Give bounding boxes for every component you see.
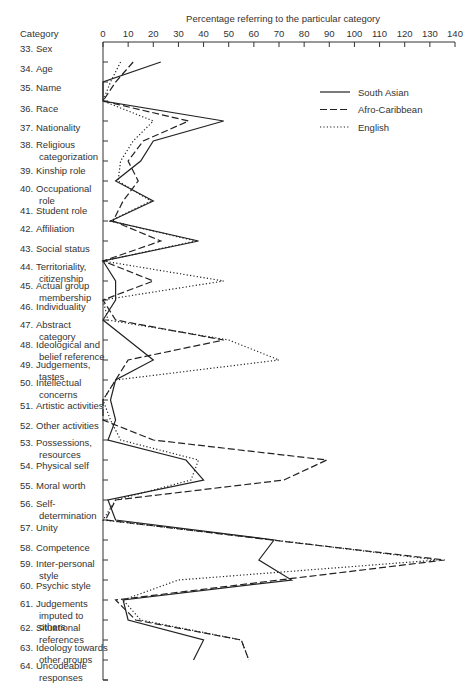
x-tick-label: 110 bbox=[372, 28, 387, 39]
x-axis-title: Percentage referring to the particular c… bbox=[186, 13, 380, 24]
y-axis-title: Category bbox=[20, 28, 59, 39]
category-label-text: Physical self bbox=[36, 460, 89, 471]
category-label: 56. bbox=[20, 498, 33, 509]
x-tick-label: 50 bbox=[223, 28, 234, 39]
category-label-text: Self- bbox=[36, 498, 56, 509]
x-tick-label: 100 bbox=[346, 28, 362, 39]
x-tick-label: 90 bbox=[324, 28, 335, 39]
category-label: 41. bbox=[20, 205, 33, 216]
x-tick-label: 70 bbox=[274, 28, 285, 39]
category-label: 38. bbox=[20, 139, 33, 150]
category-label-text: Ideology towards bbox=[36, 642, 108, 653]
category-label: 44. bbox=[20, 261, 33, 272]
category-label: 53. bbox=[20, 437, 33, 448]
category-label-text: concerns bbox=[39, 389, 78, 400]
series-english bbox=[103, 62, 437, 660]
category-label: 37. bbox=[20, 122, 33, 133]
category-label-text: Affiliation bbox=[36, 223, 74, 234]
category-label-text: Artistic activities bbox=[36, 400, 104, 411]
legend-label: English bbox=[358, 122, 389, 133]
category-labels: 33.Sex34.Age35.Name36.Race37.Nationality… bbox=[20, 43, 108, 683]
legend: South AsianAfro-CaribbeanEnglish bbox=[320, 87, 422, 133]
category-label: 35. bbox=[20, 82, 33, 93]
category-label: 39. bbox=[20, 165, 33, 176]
x-tick-label: 140 bbox=[447, 28, 463, 39]
legend-label: Afro-Caribbean bbox=[358, 104, 422, 115]
line-chart: Percentage referring to the particular c… bbox=[0, 0, 469, 690]
category-label-text: Inter-personal bbox=[36, 558, 95, 569]
x-tick-label: 0 bbox=[100, 28, 105, 39]
category-label-text: style bbox=[39, 570, 59, 581]
category-label: 40. bbox=[20, 183, 33, 194]
x-tick-label: 20 bbox=[148, 28, 159, 39]
category-label-text: Psychic style bbox=[36, 580, 91, 591]
category-label-text: Intellectual bbox=[36, 377, 81, 388]
x-tick-label: 130 bbox=[422, 28, 438, 39]
category-label: 45. bbox=[20, 280, 33, 291]
category-label-text: Individuality bbox=[36, 301, 86, 312]
category-label: 59. bbox=[20, 558, 33, 569]
category-label-text: responses bbox=[39, 672, 83, 683]
category-label-text: categorization bbox=[39, 151, 98, 162]
series-south-asian bbox=[103, 62, 292, 660]
category-label: 48. bbox=[20, 339, 33, 350]
category-label-text: Territoriality, bbox=[36, 261, 87, 272]
category-label-text: Actual group bbox=[36, 280, 89, 291]
category-label-text: Moral worth bbox=[36, 480, 86, 491]
x-tick-label: 30 bbox=[173, 28, 184, 39]
category-label: 58. bbox=[20, 542, 33, 553]
category-label-text: Uncodeable bbox=[36, 660, 87, 671]
legend-label: South Asian bbox=[358, 87, 409, 98]
category-label-text: Possessions, bbox=[36, 437, 92, 448]
category-label: 34. bbox=[20, 63, 33, 74]
category-label-text: Competence bbox=[36, 542, 90, 553]
category-label-text: Race bbox=[36, 103, 58, 114]
category-label: 54. bbox=[20, 460, 33, 471]
category-label: 50. bbox=[20, 377, 33, 388]
category-label: 52. bbox=[20, 420, 33, 431]
category-label-text: imputed to bbox=[39, 610, 83, 621]
category-label-text: Sex bbox=[36, 43, 53, 54]
category-label: 57. bbox=[20, 522, 33, 533]
category-label: 43. bbox=[20, 243, 33, 254]
category-label: 55. bbox=[20, 480, 33, 491]
category-label-text: Unity bbox=[36, 522, 58, 533]
category-label: 46. bbox=[20, 301, 33, 312]
category-label-text: Kinship role bbox=[36, 165, 86, 176]
category-label-text: Social status bbox=[36, 243, 90, 254]
x-tick-label: 40 bbox=[198, 28, 209, 39]
series-lines bbox=[103, 62, 445, 660]
category-label-text: Abstract bbox=[36, 319, 71, 330]
category-label-text: resources bbox=[39, 449, 81, 460]
category-label: 47. bbox=[20, 319, 33, 330]
x-tick-label: 80 bbox=[299, 28, 310, 39]
x-axis: 0102030405060708090100110120130140 bbox=[100, 28, 463, 47]
category-label: 36. bbox=[20, 103, 33, 114]
category-label-text: Judgements bbox=[36, 598, 88, 609]
category-label: 61. bbox=[20, 598, 33, 609]
category-label-text: Student role bbox=[36, 205, 87, 216]
category-label: 64. bbox=[20, 660, 33, 671]
category-label: 60. bbox=[20, 580, 33, 591]
category-label-text: Judgements, bbox=[36, 359, 90, 370]
x-tick-label: 120 bbox=[397, 28, 413, 39]
category-label: 63. bbox=[20, 642, 33, 653]
category-label-text: Nationality bbox=[36, 122, 81, 133]
x-tick-label: 10 bbox=[123, 28, 134, 39]
category-label: 49. bbox=[20, 359, 33, 370]
category-label: 33. bbox=[20, 43, 33, 54]
x-tick-label: 60 bbox=[249, 28, 260, 39]
category-label: 42. bbox=[20, 223, 33, 234]
category-label-text: Situational bbox=[36, 622, 80, 633]
category-label-text: determination bbox=[39, 510, 97, 521]
category-label: 62. bbox=[20, 622, 33, 633]
category-label-text: role bbox=[39, 195, 55, 206]
category-label-text: Age bbox=[36, 63, 53, 74]
category-label-text: Ideological and bbox=[36, 339, 100, 350]
category-label-text: Name bbox=[36, 82, 61, 93]
category-label-text: Religious bbox=[36, 139, 75, 150]
category-label: 51. bbox=[20, 400, 33, 411]
series-afro-caribbean bbox=[103, 62, 445, 660]
category-label-text: Other activities bbox=[36, 420, 99, 431]
category-label-text: Occupational bbox=[36, 183, 91, 194]
